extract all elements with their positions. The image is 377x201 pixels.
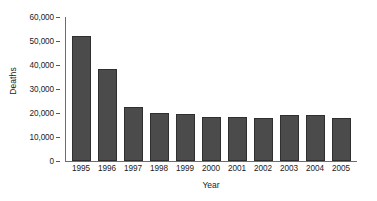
x-axis-tick-label: 2001 xyxy=(224,164,250,173)
y-axis-tick-mark xyxy=(56,137,60,138)
bar-slot xyxy=(120,17,146,161)
y-axis-tick: 40,000 xyxy=(20,59,60,71)
x-axis-tick-label: 1997 xyxy=(120,164,146,173)
plot-area xyxy=(66,17,356,161)
x-axis-tick-label: 1996 xyxy=(94,164,120,173)
y-axis-tick-mark xyxy=(56,161,60,162)
bar-slot xyxy=(250,17,276,161)
bar xyxy=(150,113,169,161)
y-axis-tick-label: 40,000 xyxy=(30,61,54,70)
bar-slot xyxy=(276,17,302,161)
x-axis-tick-label: 2002 xyxy=(250,164,276,173)
y-axis-tick-label: 30,000 xyxy=(30,85,54,94)
y-axis-tick-label: 60,000 xyxy=(30,13,54,22)
x-axis-title: Year xyxy=(66,180,356,190)
x-axis-tick-label: 1995 xyxy=(68,164,94,173)
bar-slot xyxy=(328,17,354,161)
bar xyxy=(228,117,247,161)
bar-slot xyxy=(94,17,120,161)
x-axis-tick-label: 2004 xyxy=(302,164,328,173)
y-axis-tick-label: 10,000 xyxy=(30,133,54,142)
x-axis-tick-label: 2003 xyxy=(276,164,302,173)
bar-chart: Deaths 60,00050,00040,00030,00020,00010,… xyxy=(0,0,377,201)
bar xyxy=(124,107,143,161)
bar-slot xyxy=(172,17,198,161)
y-axis-title-label: Deaths xyxy=(8,67,18,95)
y-axis-tick-label: 20,000 xyxy=(30,109,54,118)
x-axis-line xyxy=(65,161,357,162)
y-axis-tick-label: 0 xyxy=(50,157,54,166)
bar-slot xyxy=(198,17,224,161)
y-axis-tick: 10,000 xyxy=(20,131,60,143)
bar-slot xyxy=(68,17,94,161)
y-axis: 60,00050,00040,00030,00020,00010,0000 xyxy=(20,0,60,175)
y-axis-tick-label: 50,000 xyxy=(30,37,54,46)
bar xyxy=(202,117,221,161)
y-axis-tick-mark xyxy=(56,89,60,90)
y-axis-tick: 20,000 xyxy=(20,107,60,119)
bar xyxy=(306,115,325,161)
bar xyxy=(72,36,91,161)
y-axis-tick: 0 xyxy=(20,155,60,167)
bar-series xyxy=(66,17,356,161)
bar-slot xyxy=(302,17,328,161)
x-axis: 1995199619971998199920002001200220032004… xyxy=(66,164,356,173)
bar xyxy=(332,118,351,161)
y-axis-tick-mark xyxy=(56,17,60,18)
bar xyxy=(176,114,195,161)
y-axis-tick-mark xyxy=(56,41,60,42)
x-axis-tick-label: 2005 xyxy=(328,164,354,173)
y-axis-tick: 50,000 xyxy=(20,35,60,47)
bar xyxy=(254,118,273,161)
x-axis-tick-label: 2000 xyxy=(198,164,224,173)
y-axis-tick-mark xyxy=(56,113,60,114)
bar-slot xyxy=(146,17,172,161)
x-axis-tick-label: 1998 xyxy=(146,164,172,173)
bar-slot xyxy=(224,17,250,161)
bar xyxy=(280,115,299,161)
x-axis-tick-label: 1999 xyxy=(172,164,198,173)
y-axis-tick: 30,000 xyxy=(20,83,60,95)
y-axis-tick-mark xyxy=(56,65,60,66)
y-axis-title: Deaths xyxy=(6,0,20,161)
y-axis-tick: 60,000 xyxy=(20,11,60,23)
bar xyxy=(98,69,117,161)
